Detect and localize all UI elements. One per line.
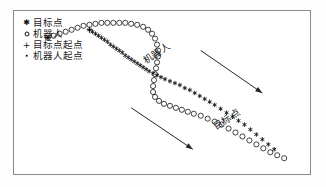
robot-point-marker: [261, 146, 266, 151]
robot-point-marker: [247, 138, 252, 143]
robot-point-marker: [153, 66, 158, 71]
robot-point-marker: [123, 20, 128, 25]
robot-point-marker: [233, 130, 238, 135]
robot-point-marker: [282, 156, 287, 161]
target-point-marker: [178, 83, 182, 88]
target-arrow-head-icon: [255, 87, 262, 93]
target-point-marker: [96, 33, 100, 38]
target-point-marker: [93, 31, 97, 36]
target-point-marker: [129, 57, 133, 62]
target-point-marker: [135, 61, 139, 66]
legend-label-robot-start: 机器人起点: [33, 50, 83, 61]
target-point-marker: [144, 67, 148, 72]
robot-point-marker: [185, 109, 190, 114]
target-point-marker: [138, 63, 142, 68]
robot-point-marker: [87, 22, 92, 27]
robot-point-marker: [135, 22, 140, 27]
target-point-marker: [159, 75, 163, 80]
target-point-marker: [99, 35, 103, 40]
robot-point-marker: [167, 103, 172, 108]
robot-point-marker: [105, 20, 110, 25]
robot-point-marker: [156, 98, 161, 103]
target-point-marker: [248, 127, 252, 132]
figure-root: ✱ 目标点 机器人 + 目标点起点 机器人起点: [0, 0, 326, 187]
series-target-points: [88, 27, 277, 151]
robot-point-marker: [93, 21, 98, 26]
star-marker-icon: ✱: [21, 17, 32, 28]
robot-point-marker: [226, 126, 231, 131]
robot-point-marker: [275, 153, 280, 158]
target-arrow-line: [201, 51, 263, 93]
target-point-marker: [114, 46, 118, 51]
robot-point-marker: [161, 101, 166, 106]
robot-point-marker: [254, 142, 259, 147]
robot-point-marker: [151, 78, 156, 83]
target-point-marker: [141, 65, 145, 70]
target-point-marker: [213, 103, 217, 108]
robot-point-marker: [117, 20, 122, 25]
robot-point-marker: [191, 111, 196, 116]
legend-label-target-start: 目标点起点: [33, 39, 83, 50]
target-point-marker: [188, 88, 192, 93]
target-point-marker: [242, 122, 246, 127]
legend-label-robot: 机器人: [33, 28, 63, 39]
robot-point-marker: [268, 150, 273, 155]
legend-item-target-start: + 目标点起点: [21, 39, 83, 50]
legend-item-target-point: ✱ 目标点: [21, 17, 83, 28]
robot-point-marker: [150, 84, 155, 89]
target-point-marker: [266, 142, 270, 147]
target-point-marker: [163, 77, 167, 82]
target-point-marker: [117, 48, 121, 53]
target-point-marker: [132, 59, 136, 64]
robot-point-marker: [173, 105, 178, 110]
robot-point-marker: [149, 31, 154, 36]
target-point-marker: [102, 37, 106, 42]
dot-marker-icon: [21, 50, 32, 61]
target-point-marker: [219, 107, 223, 112]
legend: ✱ 目标点 机器人 + 目标点起点 机器人起点: [19, 15, 86, 63]
legend-item-robot-start: 机器人起点: [21, 50, 83, 61]
target-point-marker: [168, 79, 172, 84]
plus-marker-icon: +: [21, 39, 32, 50]
legend-label-target-point: 目标点: [33, 17, 63, 28]
robot-point-marker: [111, 20, 116, 25]
robot-point-marker: [146, 27, 151, 32]
target-point-marker: [173, 81, 177, 86]
target-point-marker: [147, 69, 151, 74]
target-point-marker: [208, 100, 212, 105]
legend-item-robot: 机器人: [21, 28, 83, 39]
robot-point-marker: [179, 107, 184, 112]
robot-point-marker: [152, 94, 157, 99]
robot-point-marker: [240, 134, 245, 139]
target-point-marker: [260, 137, 264, 142]
target-point-marker: [254, 132, 258, 137]
robot-point-marker: [152, 36, 157, 41]
target-point-marker: [193, 91, 197, 96]
robot-point-marker: [141, 24, 146, 29]
circle-marker-icon: [21, 28, 32, 39]
robot-point-marker: [198, 113, 203, 118]
robot-arrow-head-icon: [186, 143, 193, 149]
target-point-marker: [126, 55, 130, 60]
target-point-marker: [111, 44, 115, 49]
target-point-marker: [183, 86, 187, 91]
target-point-marker: [198, 94, 202, 99]
annotation-arrows: [131, 51, 262, 150]
target-point-marker: [203, 97, 207, 102]
robot-point-marker: [129, 21, 134, 26]
robot-arrow-line: [131, 108, 193, 149]
robot-point-marker: [150, 89, 155, 94]
robot-point-marker: [99, 20, 104, 25]
plot-area: ✱ 目标点 机器人 + 目标点起点 机器人起点: [13, 10, 311, 175]
